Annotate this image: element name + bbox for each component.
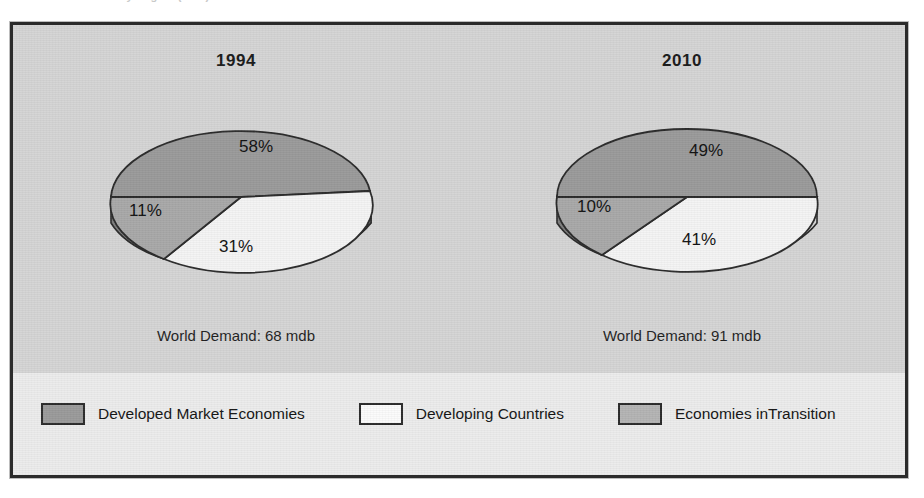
pie-chart-1994: 58% 11% 31% — [106, 97, 376, 297]
pie-2010-slice-developed — [557, 129, 817, 197]
legend-item-developed: Developed Market Economies — [41, 403, 305, 425]
pie-1994-label-transition: 11% — [129, 201, 162, 221]
legend-row: Developed Market Economies Developing Co… — [13, 403, 905, 425]
legend-swatch-developing-icon — [359, 403, 403, 425]
legend-item-transition: Economies inTransition — [618, 403, 836, 425]
plot-area: 1994 58% — [13, 25, 905, 373]
pie-1994-label-developed: 58% — [239, 137, 273, 157]
panel-year-label-1994: 1994 — [13, 51, 459, 71]
pie-svg-1994 — [106, 97, 376, 297]
pie-2010-label-developed: 49% — [689, 141, 723, 161]
panel-year-label-2010: 2010 — [459, 51, 905, 71]
pie-2010-label-transition: 10% — [577, 197, 611, 217]
legend-label-transition: Economies inTransition — [675, 405, 836, 423]
cropped-caption-remnant: World Oil Demand by Region (mdb) — [0, 0, 924, 14]
pie-1994-label-developing: 31% — [219, 237, 253, 257]
pie-2010-label-developing: 41% — [682, 230, 716, 250]
pie-panel-1994: 1994 58% — [13, 25, 459, 373]
legend-label-developing: Developing Countries — [416, 405, 564, 423]
figure-frame: 1994 58% — [10, 22, 908, 478]
legend-swatch-developed-icon — [41, 403, 85, 425]
legend-label-developed: Developed Market Economies — [98, 405, 305, 423]
legend-item-developing: Developing Countries — [359, 403, 564, 425]
pie-chart-2010: 49% 10% 41% — [552, 97, 822, 297]
legend-swatch-transition-icon — [618, 403, 662, 425]
cropped-caption-text: World Oil Demand by Region (mdb) — [18, 0, 209, 2]
legend: Developed Market Economies Developing Co… — [13, 373, 905, 475]
pie-panel-2010: 2010 49% 10% 41% World D — [459, 25, 905, 373]
world-demand-label-2010: World Demand: 91 mdb — [459, 327, 905, 344]
world-demand-label-1994: World Demand: 68 mdb — [13, 327, 459, 344]
